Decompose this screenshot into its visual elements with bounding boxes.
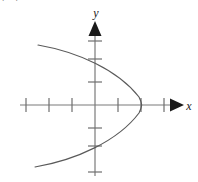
x-axis-label: x: [185, 99, 192, 113]
y-axis-label: y: [92, 6, 99, 20]
parabola-figure: p p x y: [0, 0, 198, 182]
coordinate-plane-graph: x y: [0, 0, 198, 182]
x-axis-arrowhead: [170, 99, 184, 112]
parabola-curve: [35, 45, 142, 167]
y-axis-arrowhead: [89, 21, 102, 36]
